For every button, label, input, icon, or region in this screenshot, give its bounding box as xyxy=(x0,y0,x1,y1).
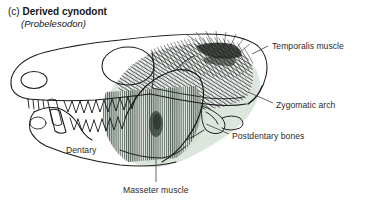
leader-temporalis xyxy=(252,46,268,54)
label-postdentary-bones: Postdentary bones xyxy=(232,131,304,141)
figure-genus: (Probelesodon) xyxy=(21,18,107,29)
label-dentary: Dentary xyxy=(66,145,96,155)
figure-title: Derived cynodont xyxy=(22,6,106,17)
snout-front xyxy=(11,72,28,99)
figure-caption: (c) Derived cynodont (Probelesodon) xyxy=(8,6,107,29)
lower-canine xyxy=(50,109,66,133)
dentary-anterior-dorsal xyxy=(34,108,92,141)
label-masseter-muscle: Masseter muscle xyxy=(123,185,189,195)
cynodont-skull-figure: (c) Derived cynodont (Probelesodon) Temp… xyxy=(0,0,370,204)
label-zygomatic-arch: Zygomatic arch xyxy=(276,100,335,110)
dentary-symphysis xyxy=(30,117,46,129)
masseter-muscle xyxy=(98,80,208,170)
label-temporalis-muscle: Temporalis muscle xyxy=(272,41,344,51)
panel-letter: (c) xyxy=(8,6,20,17)
external-naris xyxy=(21,72,47,89)
